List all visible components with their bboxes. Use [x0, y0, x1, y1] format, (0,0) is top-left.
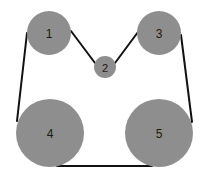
- belt-segment-1-4: [17, 33, 27, 121]
- pulley-3: 3: [137, 11, 181, 55]
- pulley-5: 5: [125, 99, 193, 167]
- pulleys: 1 2 3 4 5: [16, 11, 193, 167]
- pulley-4: 4: [16, 99, 84, 167]
- pulley-3-label: 3: [156, 27, 163, 41]
- belt-pulley-diagram: 1 2 3 4 5: [0, 0, 203, 175]
- belt-segment-2-3: [115, 32, 138, 63]
- belt-segment-1-2: [71, 31, 95, 63]
- pulley-1-label: 1: [46, 27, 53, 41]
- pulley-2: 2: [94, 56, 116, 78]
- pulley-5-label: 5: [156, 127, 163, 141]
- pulley-1: 1: [27, 11, 71, 55]
- pulley-2-label: 2: [102, 62, 108, 74]
- pulley-4-label: 4: [47, 127, 54, 141]
